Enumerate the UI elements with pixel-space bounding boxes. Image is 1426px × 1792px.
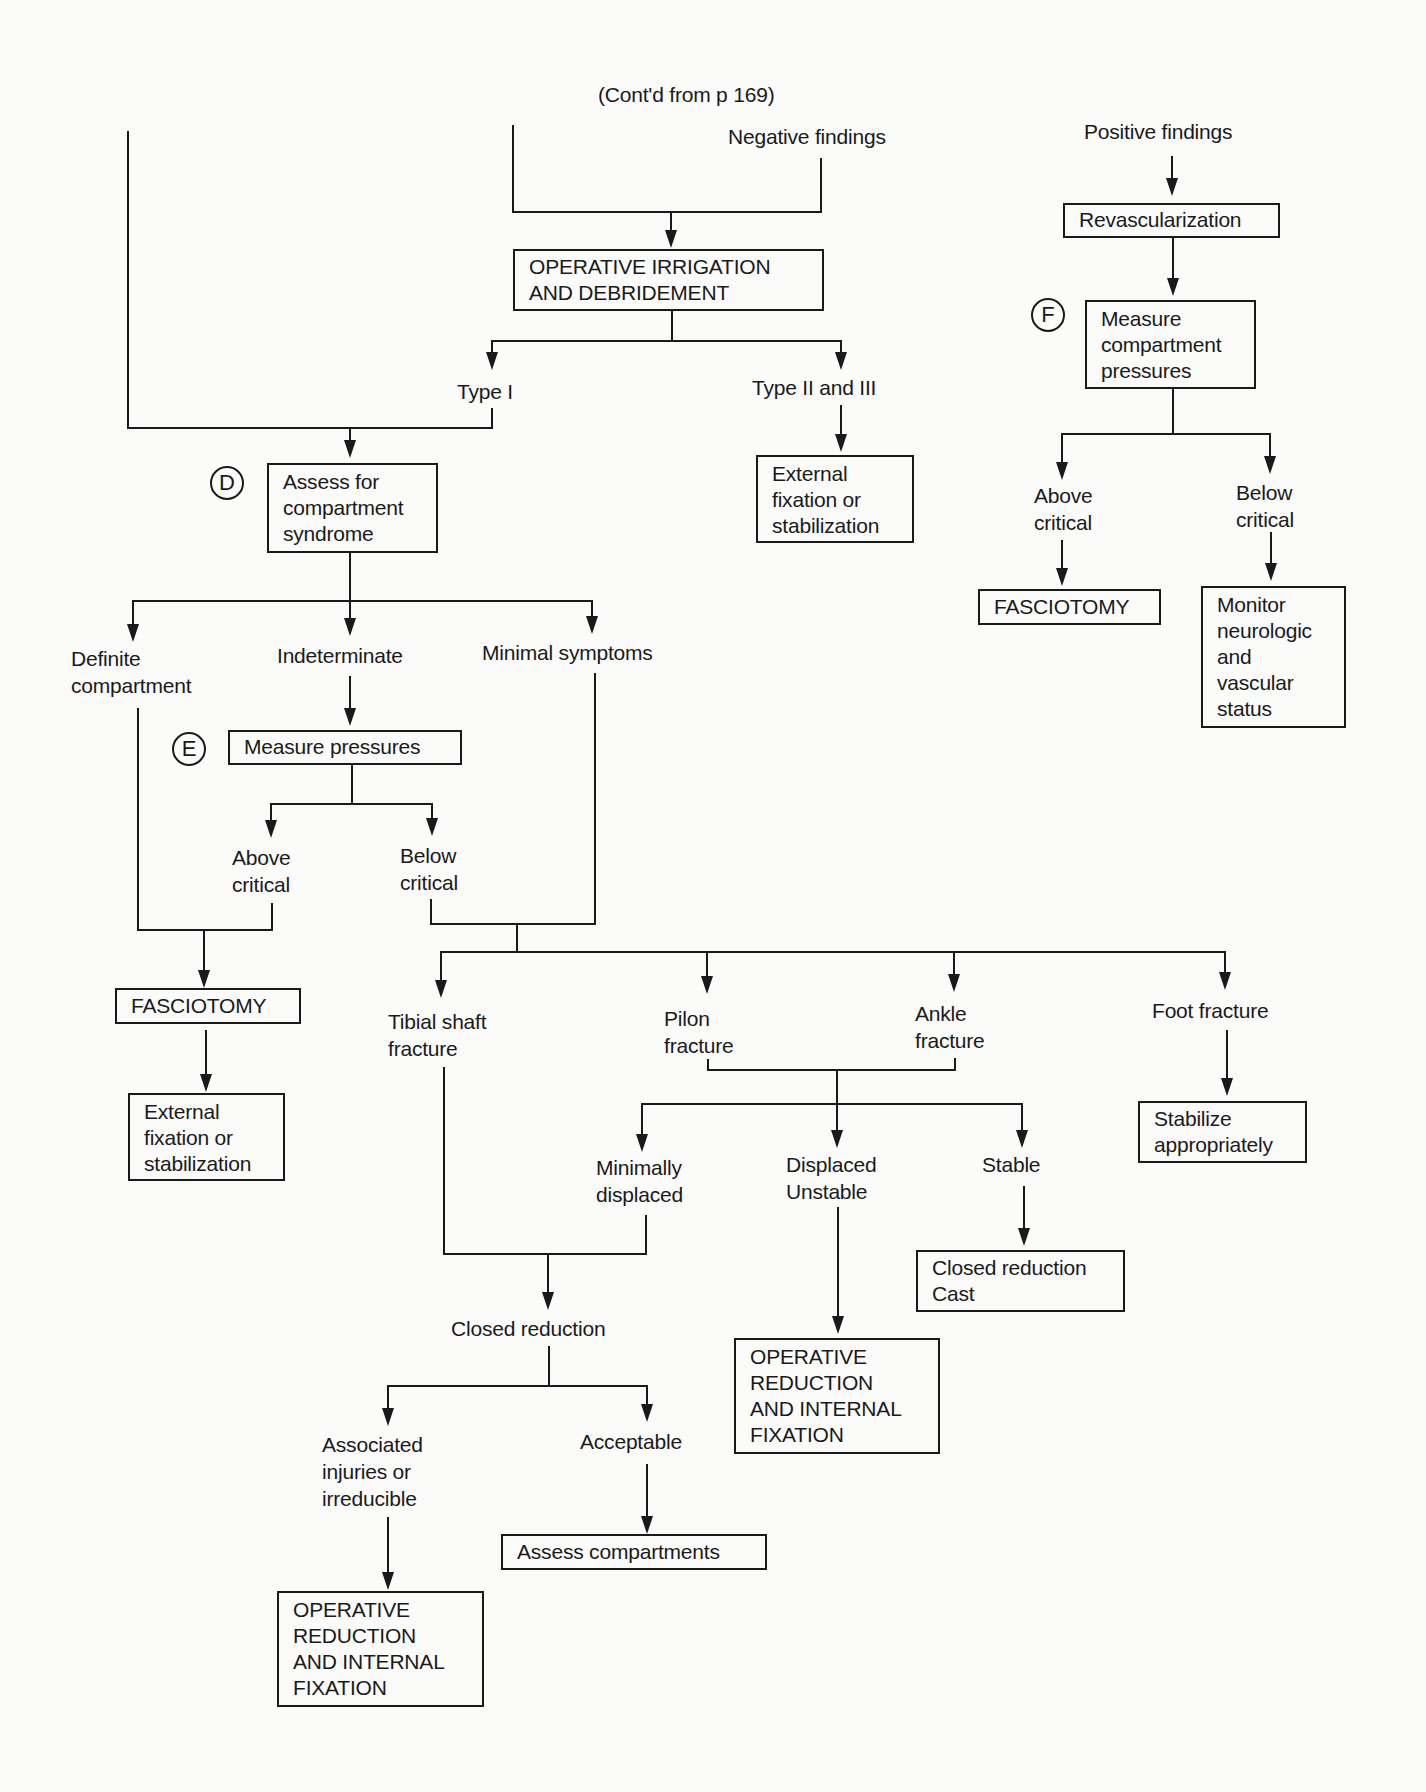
measure-pressures-box: Measure pressures: [228, 730, 462, 765]
flowchart-canvas: (Cont'd from p 169) Negative findings Po…: [0, 0, 1426, 1792]
f-above-critical-label: Above critical: [1034, 482, 1093, 536]
associated-injuries-label: Associated injuries or irreducible: [322, 1431, 423, 1512]
closed-reduction-label: Closed reduction: [451, 1315, 605, 1342]
operative-reduction-fixation-box-2: OPERATIVE REDUCTION AND INTERNAL FIXATIO…: [277, 1591, 484, 1707]
type-i-label: Type I: [457, 378, 513, 405]
monitor-status-box: Monitor neurologic and vascular status: [1201, 586, 1346, 728]
e-below-critical-label: Below critical: [400, 842, 458, 896]
external-fixation-box-2: External fixation or stabilization: [128, 1093, 285, 1181]
step-marker-e: E: [172, 732, 206, 766]
external-fixation-box-1: External fixation or stabilization: [756, 455, 914, 543]
pilon-fracture-label: Pilon fracture: [664, 1005, 734, 1059]
ankle-fracture-label: Ankle fracture: [915, 1000, 985, 1054]
assess-compartment-syndrome-box: Assess for compartment syndrome: [267, 463, 438, 553]
acceptable-label: Acceptable: [580, 1428, 682, 1455]
operative-reduction-fixation-box-1: OPERATIVE REDUCTION AND INTERNAL FIXATIO…: [734, 1338, 940, 1454]
fasciotomy-box-e: FASCIOTOMY: [115, 988, 301, 1024]
definite-compartment-label: Definite compartment: [71, 645, 191, 699]
minimal-symptoms-label: Minimal symptoms: [482, 639, 653, 666]
negative-findings-label: Negative findings: [728, 123, 886, 150]
step-marker-f: F: [1031, 298, 1065, 332]
continued-note: (Cont'd from p 169): [598, 81, 774, 108]
fasciotomy-box-f: FASCIOTOMY: [978, 589, 1161, 625]
displaced-unstable-label: Displaced Unstable: [786, 1151, 876, 1205]
revascularization-box: Revascularization: [1063, 203, 1280, 238]
operative-irrigation-box: OPERATIVE IRRIGATION AND DEBRIDEMENT: [513, 249, 824, 311]
closed-reduction-cast-box: Closed reduction Cast: [916, 1250, 1125, 1312]
tibial-shaft-fracture-label: Tibial shaft fracture: [388, 1008, 486, 1062]
measure-compartment-pressures-box: Measure compartment pressures: [1085, 300, 1256, 389]
e-above-critical-label: Above critical: [232, 844, 291, 898]
assess-compartments-box: Assess compartments: [501, 1534, 767, 1570]
positive-findings-label: Positive findings: [1084, 118, 1232, 145]
foot-fracture-label: Foot fracture: [1152, 997, 1268, 1024]
minimally-displaced-label: Minimally displaced: [596, 1154, 683, 1208]
stabilize-appropriately-box: Stabilize appropriately: [1138, 1101, 1307, 1163]
step-marker-d: D: [210, 466, 244, 500]
stable-label: Stable: [982, 1151, 1040, 1178]
f-below-critical-label: Below critical: [1236, 479, 1294, 533]
type-ii-iii-label: Type II and III: [752, 374, 876, 401]
indeterminate-label: Indeterminate: [277, 642, 403, 669]
